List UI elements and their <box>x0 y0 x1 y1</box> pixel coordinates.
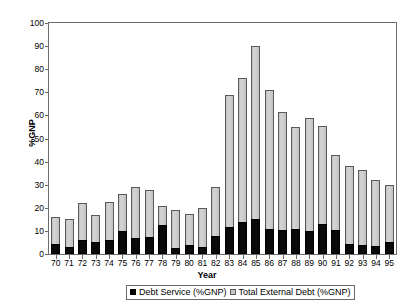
bar-group <box>385 23 394 254</box>
bar-group <box>131 23 140 254</box>
bar-debt-service <box>225 227 234 254</box>
bar-debt-service <box>118 231 127 254</box>
bar-debt-service <box>65 247 74 254</box>
bar-debt-service <box>385 242 394 254</box>
bar-debt-service <box>185 245 194 254</box>
bar-debt-service <box>331 230 340 254</box>
bar-group <box>238 23 247 254</box>
y-tick-mark <box>45 254 49 255</box>
bar-debt-service <box>278 230 287 254</box>
legend-label-total-external-debt: Total External Debt (%GNP) <box>239 287 351 297</box>
bar-debt-service <box>158 225 167 254</box>
bar-debt-service <box>131 238 140 254</box>
chart-legend: Debt Service (%GNP) Total External Debt … <box>126 285 355 300</box>
y-tick-label: 70 <box>16 88 44 96</box>
y-tick-label: 10 <box>16 227 44 235</box>
bar-group <box>331 23 340 254</box>
bar-debt-service <box>291 229 300 254</box>
y-tick-label: 60 <box>16 111 44 119</box>
bar-group <box>118 23 127 254</box>
y-tick-label: 30 <box>16 181 44 189</box>
bar-debt-service <box>171 248 180 254</box>
bar-group <box>345 23 354 254</box>
bar-group <box>198 23 207 254</box>
x-axis-title: Year <box>0 270 414 280</box>
bars-layer <box>49 23 396 254</box>
bar-group <box>358 23 367 254</box>
bar-debt-service <box>91 242 100 254</box>
bar-debt-service <box>145 237 154 254</box>
bar-debt-service <box>238 222 247 254</box>
gray-square-icon <box>230 289 236 295</box>
bar-group <box>91 23 100 254</box>
bar-debt-service <box>105 240 114 254</box>
bar-group <box>265 23 274 254</box>
bar-total-external-debt <box>371 180 380 254</box>
bar-group <box>185 23 194 254</box>
y-tick-label: 100 <box>16 19 44 27</box>
bar-debt-service <box>318 224 327 254</box>
y-tick-label: 20 <box>16 204 44 212</box>
bar-debt-service <box>211 236 220 254</box>
bar-group <box>225 23 234 254</box>
bar-group <box>278 23 287 254</box>
bar-debt-service <box>358 245 367 254</box>
bar-total-external-debt <box>345 166 354 254</box>
legend-item-total-external-debt: Total External Debt (%GNP) <box>230 287 351 297</box>
bar-group <box>65 23 74 254</box>
x-tick-label: 95 <box>379 259 399 268</box>
bar-debt-service <box>251 219 260 254</box>
y-tick-label: 90 <box>16 42 44 50</box>
bar-total-external-debt <box>358 170 367 254</box>
bar-debt-service <box>198 247 207 254</box>
bar-debt-service <box>51 244 60 254</box>
bar-group <box>251 23 260 254</box>
y-tick-label: 0 <box>16 250 44 258</box>
bar-group <box>171 23 180 254</box>
y-tick-label: 50 <box>16 135 44 143</box>
bar-group <box>371 23 380 254</box>
bar-group <box>158 23 167 254</box>
bar-group <box>211 23 220 254</box>
bar-chart: %GNP 0102030405060708090100 707172737475… <box>0 0 414 308</box>
bar-debt-service <box>371 246 380 254</box>
y-tick-label: 80 <box>16 65 44 73</box>
bar-group <box>318 23 327 254</box>
black-square-icon <box>130 289 136 295</box>
bar-debt-service <box>305 231 314 254</box>
bar-group <box>305 23 314 254</box>
bar-group <box>78 23 87 254</box>
y-tick-label: 40 <box>16 158 44 166</box>
legend-label-debt-service: Debt Service (%GNP) <box>139 287 227 297</box>
bar-group <box>51 23 60 254</box>
bar-group <box>145 23 154 254</box>
bar-debt-service <box>78 240 87 254</box>
bar-debt-service <box>265 229 274 254</box>
legend-item-debt-service: Debt Service (%GNP) <box>130 287 227 297</box>
bar-group <box>105 23 114 254</box>
bar-group <box>291 23 300 254</box>
bar-debt-service <box>345 244 354 254</box>
